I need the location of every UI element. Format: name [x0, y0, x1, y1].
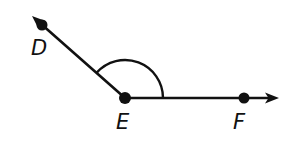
- label-E: E: [116, 112, 129, 133]
- point-F: [239, 93, 250, 104]
- ray-ED: [38, 21, 125, 98]
- angle-arc: [96, 60, 163, 98]
- point-D: [37, 20, 48, 31]
- label-D: D: [31, 38, 47, 59]
- point-E-vertex: [119, 92, 131, 104]
- label-F: F: [233, 112, 245, 133]
- angle-diagram: D E F: [0, 0, 284, 143]
